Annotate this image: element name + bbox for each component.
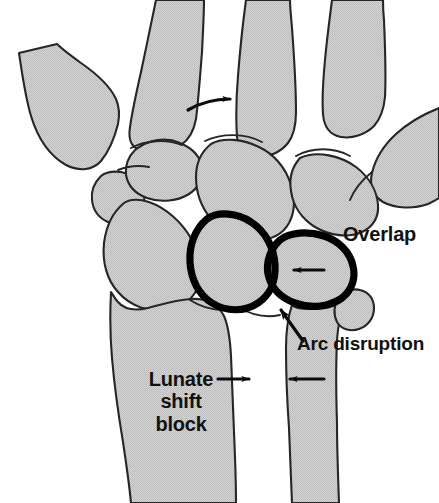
lunate-label-line-1: Lunate [138, 368, 224, 390]
overlap-label: Overlap [343, 224, 416, 244]
bone-shapes-group [19, 0, 439, 503]
lunate-label-line-3: block [138, 413, 224, 435]
bone-trapezoid [126, 140, 202, 201]
bone-third-metacarpal [236, 0, 296, 157]
bone-second-metacarpal [129, 0, 204, 152]
wrist-illustration-figure: Overlap Arc disruption Lunate shift bloc… [0, 0, 439, 503]
lunate-label-line-2: shift [138, 390, 224, 412]
bone-first-metacarpal-base [19, 44, 119, 169]
bone-fifth-metacarpal [371, 108, 439, 208]
arc-disruption-label: Arc disruption [297, 334, 424, 353]
bone-scaphoid [104, 200, 201, 311]
bone-fourth-metacarpal [323, 0, 386, 137]
lunate-shift-block-label: Lunate shift block [138, 368, 224, 435]
